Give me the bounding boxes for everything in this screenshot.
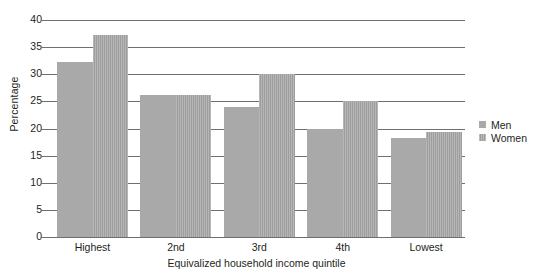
y-tick-mark-40 xyxy=(41,20,48,21)
bar-men-lowest xyxy=(391,138,427,237)
y-tick-mark-15 xyxy=(41,156,48,157)
y-tick-label-25: 25 xyxy=(16,95,42,105)
x-tick-label-lowest: Lowest xyxy=(386,240,466,254)
legend-label-women: Women xyxy=(491,132,527,144)
y-tick-mark-35 xyxy=(41,47,48,48)
legend-swatch-women-icon xyxy=(479,134,486,141)
bar-men-4th xyxy=(307,129,343,238)
y-tick-label-35: 35 xyxy=(16,41,42,51)
x-axis-tick-labels: Highest2nd3rd4thLowest xyxy=(48,240,465,258)
bar-women-highest xyxy=(93,35,129,237)
bar-women-lowest xyxy=(426,132,462,237)
y-tick-mark-5 xyxy=(41,210,48,211)
bar-men-2nd xyxy=(140,95,176,237)
bar-chart: Percentage 4035302520151050 Highest2nd3r… xyxy=(0,0,547,277)
y-axis: 4035302520151050 xyxy=(0,0,48,277)
bar-men-3rd xyxy=(224,107,260,237)
y-tick-mark-30 xyxy=(41,74,48,75)
y-tick-label-20: 20 xyxy=(16,123,42,133)
x-tick-label-4th: 4th xyxy=(303,240,383,254)
bars-layer xyxy=(48,20,465,237)
y-tick-mark-20 xyxy=(41,129,48,130)
y-tick-mark-25 xyxy=(41,101,48,102)
legend-label-men: Men xyxy=(491,119,511,131)
x-axis-title: Equivalized household income quintile xyxy=(48,257,465,269)
bar-women-4th xyxy=(343,101,379,237)
bar-women-2nd xyxy=(176,95,212,237)
y-tick-label-30: 30 xyxy=(16,68,42,78)
y-tick-label-0: 0 xyxy=(16,231,42,241)
y-tick-label-40: 40 xyxy=(16,14,42,24)
legend-item-women: Women xyxy=(479,131,527,144)
x-tick-label-3rd: 3rd xyxy=(219,240,299,254)
y-tick-mark-10 xyxy=(41,183,48,184)
y-tick-label-10: 10 xyxy=(16,177,42,187)
bar-women-3rd xyxy=(259,74,295,237)
bar-men-highest xyxy=(57,62,93,237)
legend: MenWomen xyxy=(479,118,527,144)
y-tick-label-15: 15 xyxy=(16,150,42,160)
x-tick-label-highest: Highest xyxy=(53,240,133,254)
legend-swatch-men-icon xyxy=(479,121,486,128)
legend-item-men: Men xyxy=(479,118,527,131)
x-tick-label-2nd: 2nd xyxy=(136,240,216,254)
y-tick-label-5: 5 xyxy=(16,204,42,214)
x-axis-line xyxy=(44,237,465,238)
